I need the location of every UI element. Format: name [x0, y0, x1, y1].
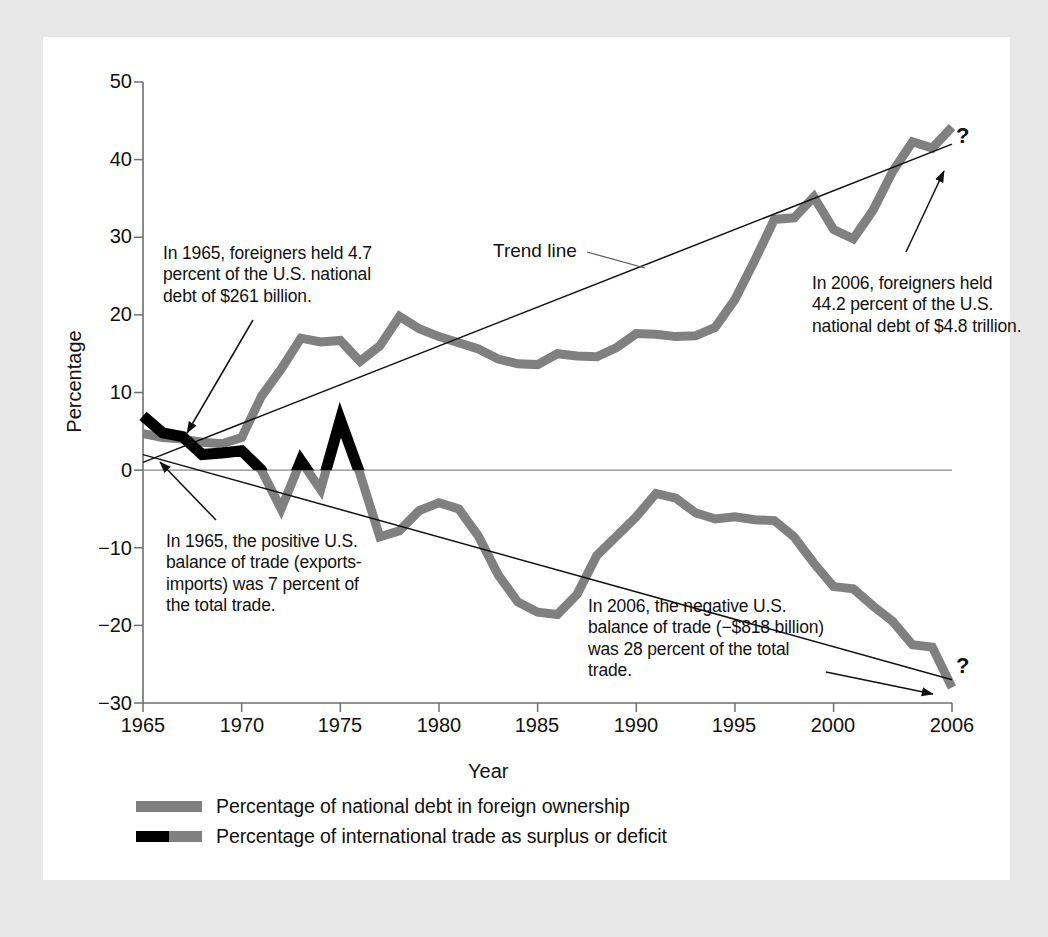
annotation-debt-2006: In 2006, foreigners held 44.2 percent of… — [812, 273, 1022, 337]
x-tick-2006: 2006 — [922, 714, 982, 737]
leader-debt-2006 — [906, 171, 944, 252]
y-tick-0: 0 — [80, 459, 132, 482]
x-tick-2000: 2000 — [803, 714, 863, 737]
legend-item-debt: Percentage of national debt in foreign o… — [136, 795, 630, 818]
annotation-trade-2006: In 2006, the negative U.S. balance of tr… — [588, 596, 833, 681]
legend-swatch-gray — [136, 801, 202, 812]
legend-swatch-black-gray — [136, 831, 202, 842]
leader-trade-2006 — [826, 672, 933, 694]
y-tick-neg10: −10 — [72, 537, 132, 560]
annotation-debt-1965: In 1965, foreigners held 4.7 percent of … — [163, 243, 378, 307]
x-tick-1985: 1985 — [507, 714, 567, 737]
y-tick-10: 10 — [80, 381, 132, 404]
trend-label-leader — [587, 252, 645, 268]
x-tick-1970: 1970 — [212, 714, 272, 737]
y-axis-label: Percentage — [63, 302, 86, 462]
y-tick-neg30: −30 — [72, 692, 132, 715]
annotation-trade-1965: In 1965, the positive U.S. balance of tr… — [166, 531, 381, 616]
legend-label-debt: Percentage of national debt in foreign o… — [216, 795, 630, 818]
x-tick-1990: 1990 — [606, 714, 666, 737]
x-tick-1980: 1980 — [409, 714, 469, 737]
y-tick-20: 20 — [80, 303, 132, 326]
legend-item-trade: Percentage of international trade as sur… — [136, 825, 667, 848]
question-mark-bottom: ? — [956, 653, 969, 679]
leader-debt-1965 — [187, 320, 253, 433]
x-axis-label: Year — [468, 760, 508, 783]
y-tick-neg20: −20 — [72, 614, 132, 637]
y-tick-50: 50 — [80, 70, 132, 93]
legend-label-trade: Percentage of international trade as sur… — [216, 825, 667, 848]
x-tick-1965: 1965 — [113, 714, 173, 737]
x-tick-1995: 1995 — [704, 714, 764, 737]
x-tick-1975: 1975 — [310, 714, 370, 737]
y-tick-40: 40 — [80, 148, 132, 171]
trend-line-label: Trend line — [493, 240, 577, 262]
y-tick-30: 30 — [80, 225, 132, 248]
question-mark-top: ? — [956, 123, 969, 149]
